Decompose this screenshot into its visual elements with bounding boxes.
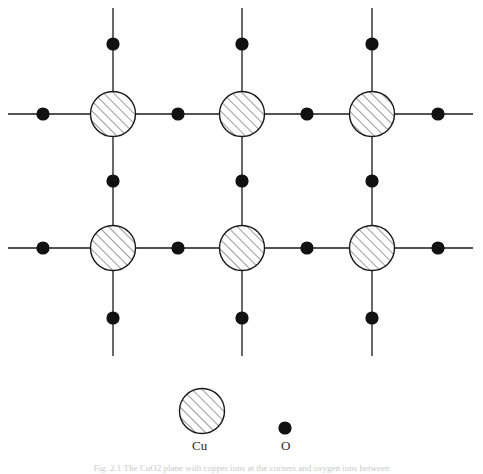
oxygen-atom	[36, 107, 49, 120]
legend-oxygen-symbol	[278, 421, 291, 434]
oxygen-atom	[171, 107, 184, 120]
copper-atom	[220, 92, 265, 137]
oxygen-atom	[235, 174, 248, 187]
oxygen-atom	[300, 107, 313, 120]
figure-caption: Fig. 2.1 The CuO2 plane with copper ions…	[0, 463, 483, 474]
oxygen-atom	[171, 241, 184, 254]
oxygen-atom	[431, 107, 444, 120]
oxygen-atom	[365, 311, 378, 324]
legend-label-o: O	[281, 439, 291, 453]
oxygen-atom	[106, 174, 119, 187]
oxygen-atom	[106, 37, 119, 50]
copper-atom	[220, 226, 265, 271]
legend-symbols	[180, 389, 292, 435]
oxygen-atom	[431, 241, 444, 254]
legend-copper-symbol	[180, 389, 225, 434]
legend-label-cu: Cu	[192, 439, 208, 453]
copper-atom	[91, 92, 136, 137]
copper-atom	[91, 226, 136, 271]
oxygen-atom	[365, 37, 378, 50]
oxygen-atom	[365, 174, 378, 187]
oxygen-atom	[235, 311, 248, 324]
oxygen-ions	[36, 37, 444, 324]
oxygen-atom	[300, 241, 313, 254]
oxygen-atom	[235, 37, 248, 50]
oxygen-atom	[36, 241, 49, 254]
copper-atom	[350, 92, 395, 137]
copper-atom	[350, 226, 395, 271]
oxygen-atom	[106, 311, 119, 324]
